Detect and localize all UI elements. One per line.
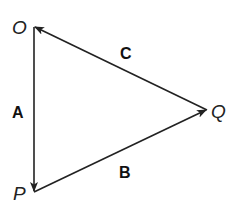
vector-a-label: A bbox=[12, 104, 24, 121]
vector-c-arrow bbox=[35, 27, 207, 110]
point-o-label: O bbox=[12, 17, 27, 38]
vector-b-label: B bbox=[119, 164, 131, 181]
vector-c-label: C bbox=[120, 45, 132, 62]
vector-triangle-diagram: O P Q A B C bbox=[0, 0, 238, 202]
point-p-label: P bbox=[13, 183, 26, 202]
point-q-label: Q bbox=[211, 101, 226, 122]
